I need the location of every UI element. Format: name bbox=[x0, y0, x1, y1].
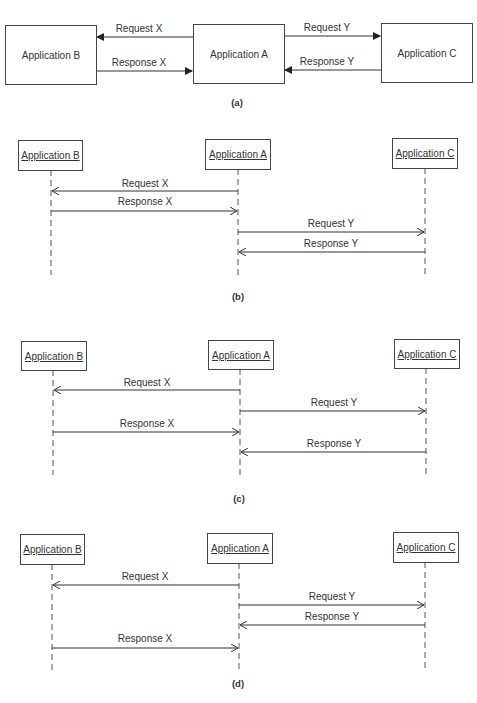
label-response-x: Response X bbox=[112, 57, 166, 68]
participant-application-c: Application C bbox=[392, 138, 458, 169]
participant-application-b: Application B bbox=[21, 341, 87, 371]
label-request-x: Request X bbox=[122, 571, 169, 582]
label-request-y: Request Y bbox=[309, 591, 356, 602]
label-response-x: Response X bbox=[120, 418, 174, 429]
participant-label: Application C bbox=[396, 148, 455, 159]
participant-label: Application C bbox=[398, 349, 457, 360]
participant-application-a: Application A bbox=[208, 340, 274, 370]
box-application-a: Application A bbox=[193, 24, 285, 84]
participant-label: Application B bbox=[21, 150, 79, 161]
caption-a: (a) bbox=[231, 97, 243, 108]
participant-application-b: Application B bbox=[20, 534, 85, 565]
label-response-y: Response Y bbox=[307, 438, 361, 449]
participant-label: Application A bbox=[212, 350, 270, 361]
label-response-y: Response Y bbox=[300, 56, 354, 67]
participant-label: Application B bbox=[25, 351, 83, 362]
caption-d: (d) bbox=[232, 678, 244, 689]
label-request-y: Request Y bbox=[311, 397, 358, 408]
panel-d-lifelines bbox=[52, 562, 425, 670]
participant-application-b: Application B bbox=[18, 140, 83, 171]
panel-c-lifelines bbox=[53, 368, 426, 475]
participant-application-c: Application C bbox=[394, 339, 460, 369]
label-response-y: Response Y bbox=[305, 611, 359, 622]
box-label: Application B bbox=[22, 50, 80, 61]
caption-c: (c) bbox=[233, 493, 245, 504]
box-application-c: Application C bbox=[381, 23, 473, 83]
box-label: Application A bbox=[210, 49, 268, 60]
label-request-y: Request Y bbox=[308, 218, 355, 229]
participant-application-a: Application A bbox=[205, 139, 271, 170]
label-request-x: Request X bbox=[122, 178, 169, 189]
label-request-x: Request X bbox=[124, 377, 171, 388]
box-label: Application C bbox=[398, 48, 457, 59]
box-application-b: Application B bbox=[5, 25, 97, 85]
label-response-x: Response X bbox=[118, 633, 172, 644]
participant-label: Application A bbox=[209, 149, 267, 160]
panel-b-lifelines bbox=[51, 168, 425, 275]
label-response-x: Response X bbox=[118, 196, 172, 207]
participant-label: Application A bbox=[211, 543, 269, 554]
participant-label: Application B bbox=[23, 544, 81, 555]
participant-label: Application C bbox=[397, 542, 456, 553]
label-request-y: Request Y bbox=[304, 22, 351, 33]
caption-b: (b) bbox=[232, 291, 244, 302]
participant-application-c: Application C bbox=[393, 532, 459, 563]
participant-application-a: Application A bbox=[207, 533, 273, 564]
label-request-x: Request X bbox=[116, 23, 163, 34]
label-response-y: Response Y bbox=[304, 238, 358, 249]
